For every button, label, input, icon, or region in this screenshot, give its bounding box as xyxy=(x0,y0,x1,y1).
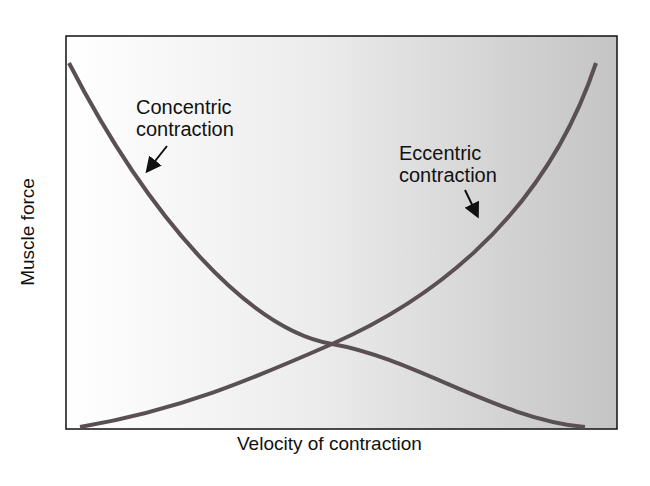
eccentric-annotation: Eccentric contraction xyxy=(399,142,497,186)
concentric-label-line2: contraction xyxy=(136,118,234,140)
eccentric-label-line1: Eccentric xyxy=(399,142,497,164)
y-axis-label: Muscle force xyxy=(17,178,39,286)
concentric-label-line1: Concentric xyxy=(136,96,234,118)
x-axis-label: Velocity of contraction xyxy=(237,433,422,455)
eccentric-label-line2: contraction xyxy=(399,164,497,186)
plot-area xyxy=(66,36,617,429)
concentric-annotation: Concentric contraction xyxy=(136,96,234,140)
chart-canvas xyxy=(0,0,650,486)
